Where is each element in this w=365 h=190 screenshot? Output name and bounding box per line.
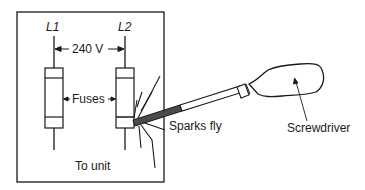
label-fuses: Fuses (72, 93, 105, 105)
label-screwdriver: Screwdriver (287, 122, 350, 134)
fuse-2 (116, 68, 134, 128)
label-to-unit: To unit (75, 160, 110, 172)
label-l2: L2 (118, 21, 131, 33)
label-sparks: Sparks fly (169, 120, 222, 132)
screwdriver-icon (133, 64, 324, 126)
screwdriver-handle (249, 64, 324, 97)
fuse-1 (45, 68, 63, 128)
label-voltage: 240 V (72, 43, 103, 55)
label-l1: L1 (46, 21, 59, 33)
screwdriver-shaft (180, 86, 243, 111)
